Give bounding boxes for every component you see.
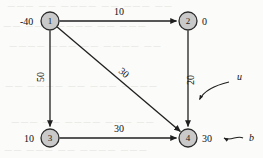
edge-1-4 (57, 27, 180, 131)
node-1-label: 1 (48, 16, 53, 26)
node-3[interactable]: 3 10 (24, 129, 59, 147)
node-2-label: 2 (186, 16, 191, 26)
node-2-supply: 0 (202, 16, 207, 27)
node-3-label: 3 (48, 133, 53, 143)
edge-label-1-2: 10 (114, 6, 124, 17)
node-2[interactable]: 2 0 (179, 12, 207, 30)
edges-group (50, 21, 188, 138)
edge-labels-group: 10 50 30 20 30 (35, 6, 196, 134)
annotation-b-label: b (249, 132, 254, 143)
annotation-u-label: u (237, 71, 242, 82)
annotation-u-arrow (200, 82, 230, 100)
edge-label-1-3: 50 (35, 72, 46, 82)
edge-label-2-4: 20 (185, 75, 196, 85)
node-4-supply: 30 (202, 133, 212, 144)
node-1[interactable]: 1 -40 (20, 12, 59, 30)
edge-label-1-4: 30 (117, 65, 132, 80)
annotation-u: u (200, 71, 243, 100)
annotation-b: b (224, 132, 254, 143)
edge-label-3-4: 30 (114, 123, 124, 134)
figure-canvas: —— ——— —— ———— —— ——— ——— —— ———— ——— ——… (0, 0, 263, 158)
node-4[interactable]: 4 30 (179, 129, 212, 147)
node-1-supply: -40 (20, 16, 33, 27)
node-4-label: 4 (186, 133, 191, 143)
node-3-supply: 10 (24, 133, 34, 144)
network-graph: 10 50 30 20 30 u b 1 -40 (0, 0, 263, 158)
annotation-b-arrow (224, 137, 243, 139)
